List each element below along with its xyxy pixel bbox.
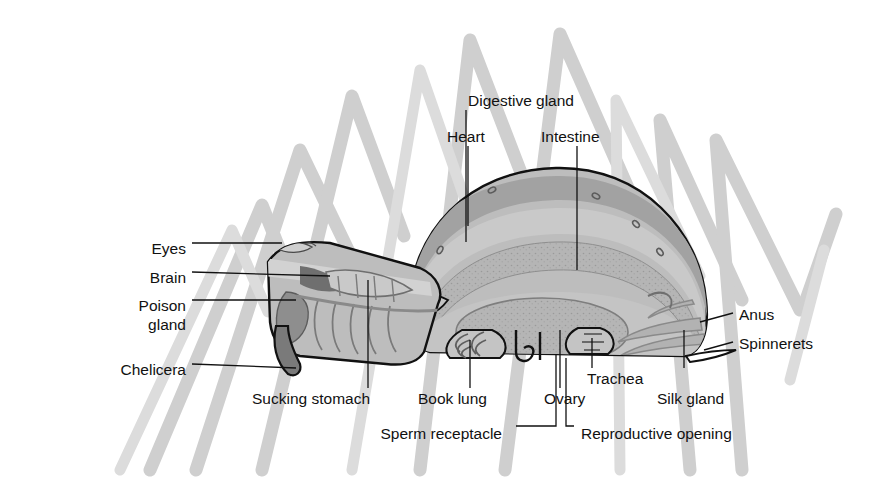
label-book-lung: Book lung [418,390,487,408]
label-spinnerets: Spinnerets [739,335,813,353]
label-chelicera: Chelicera [66,361,186,379]
label-reproductive-opening: Reproductive opening [581,425,732,443]
label-poison-gland-line2: gland [86,316,186,334]
label-silk-gland: Silk gland [657,390,724,408]
label-digestive-gland: Digestive gland [468,92,574,110]
label-poison-gland: Poison [86,297,186,315]
label-trachea: Trachea [587,370,643,388]
spider-anatomy-diagram: Digestive gland Heart Intestine Eyes Bra… [0,0,880,489]
label-sucking-stomach: Sucking stomach [252,390,370,408]
label-brain: Brain [86,269,186,287]
cephalothorax [264,242,440,376]
label-sperm-receptacle: Sperm receptacle [202,425,502,443]
label-heart: Heart [447,128,485,146]
label-eyes: Eyes [86,240,186,258]
label-intestine: Intestine [541,128,600,146]
label-ovary: Ovary [544,390,585,408]
label-anus: Anus [739,306,774,324]
